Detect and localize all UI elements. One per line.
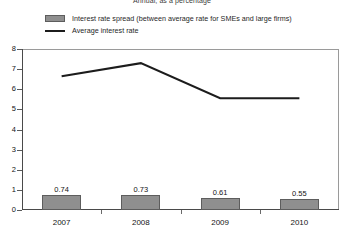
- x-tick-mark: [260, 210, 261, 214]
- legend-item-interest-rate-spread: Interest rate spread (between average ra…: [45, 13, 344, 24]
- y-tick-label-holder: 0: [0, 206, 16, 213]
- y-tick-label-holder: 3: [0, 146, 16, 153]
- legend-swatch-line-icon: [45, 27, 65, 34]
- chart-subtitle: Annual, as a percentage: [0, 0, 344, 4]
- y-tick-label-holder: 6: [0, 85, 16, 92]
- x-tick-label: 2010: [260, 218, 339, 227]
- y-tick-label: 8: [2, 45, 16, 52]
- y-tick-label-holder: 8: [0, 45, 16, 52]
- y-tick-label-holder: 5: [0, 105, 16, 112]
- chart-container: Annual, as a percentage Interest rate sp…: [0, 0, 344, 239]
- x-tick-label: 2007: [22, 218, 101, 227]
- chart-legend: Interest rate spread (between average ra…: [45, 13, 344, 37]
- legend-label-interest-rate-spread: Interest rate spread (between average ra…: [72, 14, 292, 23]
- average-interest-rate-line: [62, 63, 300, 98]
- y-tick-label: 1: [2, 186, 16, 193]
- y-tick-label: 5: [2, 105, 16, 112]
- legend-label-average-interest-rate: Average interest rate: [72, 26, 139, 35]
- y-tick-label: 4: [2, 126, 16, 133]
- y-tick-mark: [17, 210, 22, 211]
- x-tick-mark: [181, 210, 182, 214]
- y-tick-label-holder: 2: [0, 166, 16, 173]
- y-tick-label-holder: 7: [0, 65, 16, 72]
- x-tick-mark: [101, 210, 102, 214]
- x-tick-label: 2009: [181, 218, 260, 227]
- y-tick-label: 7: [2, 65, 16, 72]
- y-tick-label-holder: 4: [0, 126, 16, 133]
- y-tick-label: 6: [2, 85, 16, 92]
- line-series: [22, 49, 339, 210]
- x-tick-label: 2008: [101, 218, 180, 227]
- legend-swatch-box-icon: [45, 15, 65, 22]
- y-tick-label-holder: 1: [0, 186, 16, 193]
- legend-item-average-interest-rate: Average interest rate: [45, 25, 344, 36]
- y-tick-label: 2: [2, 166, 16, 173]
- y-tick-label: 3: [2, 146, 16, 153]
- y-tick-label: 0: [2, 206, 16, 213]
